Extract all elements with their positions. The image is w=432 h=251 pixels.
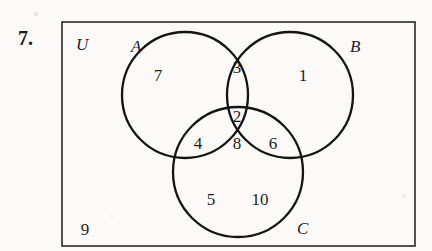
scan-speck: [402, 194, 406, 198]
region-value-b-only: 1: [299, 66, 308, 85]
problem-number: 7.: [18, 27, 33, 49]
venn-diagram-svg: 7. U A B C 7 3 1 2 4 8 6 5 10 9: [0, 0, 432, 251]
region-value-b-c: 6: [269, 134, 278, 153]
venn-diagram-figure: 7. U A B C 7 3 1 2 4 8 6 5 10 9: [0, 0, 432, 251]
set-label-a: A: [130, 37, 142, 56]
scan-speck: [110, 214, 113, 217]
region-value-outside: 9: [81, 220, 90, 239]
universal-set-label: U: [76, 35, 90, 54]
region-value-a-b-c-lower: 8: [233, 134, 242, 153]
paper-background: [0, 0, 432, 251]
region-value-c-only-left: 5: [207, 190, 216, 209]
region-value-a-b: 3: [233, 58, 242, 77]
set-label-c: C: [297, 219, 309, 238]
region-value-a-c: 4: [194, 134, 203, 153]
set-label-b: B: [350, 37, 361, 56]
region-value-c-only-right: 10: [252, 190, 269, 209]
region-value-a-only: 7: [154, 66, 163, 85]
scan-speck: [34, 12, 38, 16]
region-value-a-b-c-upper: 2: [233, 107, 242, 126]
